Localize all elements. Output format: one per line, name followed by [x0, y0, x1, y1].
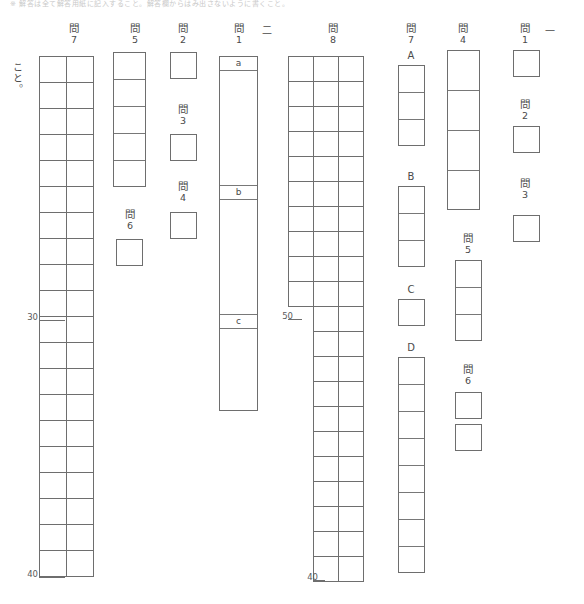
- grid-cell[interactable]: [339, 82, 364, 107]
- grid-cell[interactable]: [67, 57, 94, 83]
- grid-cell[interactable]: [40, 473, 67, 499]
- grid-cell[interactable]: [40, 447, 67, 473]
- answer-cell[interactable]: [399, 120, 424, 147]
- grid-cell[interactable]: [40, 239, 67, 265]
- grid-cell[interactable]: [289, 157, 314, 182]
- answer-box-s1-q2[interactable]: [513, 126, 540, 153]
- grid-cell[interactable]: [67, 421, 94, 447]
- answer-box-s1-q6-1[interactable]: [455, 392, 482, 419]
- grid-cell[interactable]: [67, 187, 94, 213]
- grid-cell[interactable]: [314, 207, 339, 232]
- grid-cell[interactable]: [40, 395, 67, 421]
- grid-cell[interactable]: [339, 107, 364, 132]
- answer-cell[interactable]: [399, 66, 424, 93]
- grid-cell[interactable]: [314, 357, 339, 382]
- grid-cell[interactable]: [314, 382, 339, 407]
- grid-cell[interactable]: [67, 239, 94, 265]
- grid-cell[interactable]: [314, 107, 339, 132]
- answer-cell[interactable]: [456, 288, 481, 315]
- grid-cell[interactable]: [314, 532, 339, 557]
- grid-cell[interactable]: [40, 109, 67, 135]
- answer-cell[interactable]: [399, 358, 424, 385]
- answer-cell[interactable]: [399, 412, 424, 439]
- answer-cell[interactable]: [114, 134, 145, 161]
- grid-cell[interactable]: [67, 135, 94, 161]
- answer-cell[interactable]: [114, 80, 145, 107]
- grid-cell[interactable]: [339, 157, 364, 182]
- answer-area-c[interactable]: [220, 329, 257, 409]
- answer-cell[interactable]: [399, 466, 424, 493]
- grid-cell[interactable]: [67, 265, 94, 291]
- grid-cell[interactable]: [339, 457, 364, 482]
- grid-cell[interactable]: [339, 182, 364, 207]
- grid-cell[interactable]: [67, 551, 94, 577]
- answer-cell[interactable]: [448, 91, 479, 131]
- answer-cell[interactable]: [399, 241, 424, 268]
- grid-cell[interactable]: [314, 232, 339, 257]
- grid-cell[interactable]: [289, 232, 314, 257]
- grid-cell[interactable]: [40, 525, 67, 551]
- grid-cell[interactable]: [40, 421, 67, 447]
- answer-cell[interactable]: [456, 261, 481, 288]
- answer-cell[interactable]: [114, 161, 145, 188]
- grid-cell[interactable]: [67, 369, 94, 395]
- answer-box-s2-q3[interactable]: [170, 134, 197, 161]
- grid-cell[interactable]: [339, 357, 364, 382]
- answer-cell[interactable]: [399, 93, 424, 120]
- answer-cell[interactable]: [456, 315, 481, 342]
- answer-box-s1-q3[interactable]: [513, 215, 540, 242]
- grid-cell[interactable]: [339, 257, 364, 282]
- grid-cell[interactable]: [314, 282, 339, 307]
- answer-box-s1-q7-C[interactable]: [398, 299, 425, 326]
- grid-cell[interactable]: [339, 57, 364, 82]
- grid-cell[interactable]: [40, 161, 67, 187]
- grid-cell[interactable]: [339, 482, 364, 507]
- answer-cell[interactable]: [399, 493, 424, 520]
- grid-cell[interactable]: [314, 257, 339, 282]
- grid-cell[interactable]: [339, 132, 364, 157]
- answer-cell[interactable]: [399, 385, 424, 412]
- grid-cell[interactable]: [314, 507, 339, 532]
- grid-cell[interactable]: [40, 135, 67, 161]
- grid-cell[interactable]: [339, 307, 364, 332]
- grid-cell[interactable]: [40, 83, 67, 109]
- grid-cell[interactable]: [339, 207, 364, 232]
- grid-cell[interactable]: [289, 82, 314, 107]
- grid-cell[interactable]: [314, 457, 339, 482]
- grid-cell[interactable]: [339, 332, 364, 357]
- answer-cell[interactable]: [399, 520, 424, 547]
- grid-cell[interactable]: [314, 82, 339, 107]
- grid-cell[interactable]: [40, 291, 67, 317]
- answer-cell[interactable]: [114, 107, 145, 134]
- grid-cell[interactable]: [339, 432, 364, 457]
- grid-cell[interactable]: [339, 557, 364, 582]
- answer-box-s2-q6[interactable]: [116, 239, 143, 266]
- grid-cell[interactable]: [289, 207, 314, 232]
- grid-cell[interactable]: [40, 499, 67, 525]
- grid-cell[interactable]: [40, 369, 67, 395]
- grid-cell[interactable]: [67, 317, 94, 343]
- grid-cell[interactable]: [40, 57, 67, 83]
- answer-cell[interactable]: [399, 547, 424, 574]
- grid-cell[interactable]: [67, 161, 94, 187]
- grid-cell[interactable]: [67, 525, 94, 551]
- grid-cell[interactable]: [289, 107, 314, 132]
- grid-cell[interactable]: [339, 282, 364, 307]
- grid-cell[interactable]: [67, 343, 94, 369]
- grid-cell[interactable]: [339, 382, 364, 407]
- grid-cell[interactable]: [40, 265, 67, 291]
- answer-cell[interactable]: [448, 171, 479, 211]
- grid-cell[interactable]: [40, 343, 67, 369]
- grid-cell[interactable]: [314, 182, 339, 207]
- grid-cell[interactable]: [67, 499, 94, 525]
- grid-cell[interactable]: [289, 182, 314, 207]
- answer-cell[interactable]: [399, 214, 424, 241]
- grid-cell[interactable]: [314, 132, 339, 157]
- answer-box-s2-q4[interactable]: [170, 212, 197, 239]
- answer-cell[interactable]: [114, 53, 145, 80]
- answer-cell[interactable]: [448, 51, 479, 91]
- grid-cell[interactable]: [289, 282, 314, 307]
- answer-cell[interactable]: [399, 439, 424, 466]
- grid-cell[interactable]: [40, 187, 67, 213]
- grid-cell[interactable]: [67, 291, 94, 317]
